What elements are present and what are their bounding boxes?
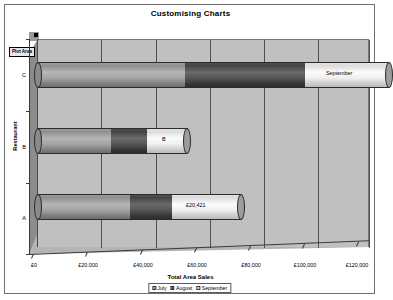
cylinder-cap-right-icon (237, 194, 245, 220)
value-axis-label[interactable]: £0 (12, 262, 56, 268)
category-axis-tick (26, 183, 29, 184)
plot-area-selection-handle[interactable] (34, 33, 38, 37)
plot-area-tooltip: Plot Area (9, 47, 35, 57)
legend-swatch-august-icon (171, 286, 175, 290)
bar-series-a[interactable]: £20,421 (38, 194, 253, 220)
cylinder-cap-left-icon (34, 128, 42, 154)
bar-a-segment-july[interactable] (38, 194, 130, 220)
value-axis-label[interactable]: £120,000 (335, 262, 379, 268)
chart-frame[interactable]: Customising Charts September (4, 4, 375, 294)
value-axis-label[interactable]: £60,000 (175, 262, 219, 268)
category-label-a[interactable]: A (17, 215, 26, 221)
bar-series-b[interactable]: B (38, 128, 198, 154)
legend-swatch-july-icon (152, 286, 156, 290)
value-axis-label[interactable]: £20,000 (66, 262, 110, 268)
category-axis-tick (26, 111, 29, 112)
legend-item-july[interactable]: July (152, 285, 167, 291)
bar-c-segment-august[interactable] (185, 62, 305, 88)
chart-legend[interactable]: July August September (148, 283, 231, 293)
category-label-c[interactable]: C (17, 72, 26, 78)
legend-item-august[interactable]: August (171, 285, 193, 291)
cylinder-cap-right-icon (385, 62, 393, 88)
bar-b-segment-august[interactable] (111, 128, 147, 154)
value-axis-label[interactable]: £40,000 (121, 262, 165, 268)
y-axis-title[interactable]: Restaurant (12, 106, 18, 166)
bar-b-segment-september[interactable] (147, 128, 187, 154)
bar-a-segment-september[interactable] (172, 194, 241, 220)
category-label-b[interactable]: B (17, 144, 26, 150)
legend-label-august: August (176, 285, 192, 291)
legend-item-september[interactable]: September (196, 285, 227, 291)
value-axis-tick (85, 252, 88, 257)
legend-label-july: July (157, 285, 166, 291)
bar-a-segment-august[interactable] (130, 194, 172, 220)
category-axis-line[interactable] (29, 39, 30, 254)
category-axis-tick (26, 39, 29, 40)
cylinder-cap-right-icon (183, 128, 191, 154)
value-axis-label[interactable]: £80,000 (229, 262, 273, 268)
bar-series-c[interactable]: September (38, 62, 393, 88)
x-axis-title[interactable]: Total Area Sales (5, 274, 376, 280)
bar-a-data-label[interactable]: £20,421 (186, 202, 206, 208)
cylinder-cap-left-icon (34, 62, 42, 88)
plot-area[interactable]: September B £20,421 Plot Area (29, 32, 369, 254)
chart-title[interactable]: Customising Charts (5, 9, 376, 18)
bar-c-segment-july[interactable] (38, 62, 185, 88)
value-axis-tick (31, 254, 34, 259)
cylinder-cap-left-icon (34, 194, 42, 220)
legend-swatch-september-icon (196, 286, 200, 290)
bar-b-data-label[interactable]: B (162, 136, 166, 142)
legend-label-september: September (202, 285, 227, 291)
bar-b-segment-july[interactable] (38, 128, 111, 154)
bar-c-data-label[interactable]: September (326, 70, 352, 76)
value-axis-label[interactable]: £100,000 (283, 262, 327, 268)
